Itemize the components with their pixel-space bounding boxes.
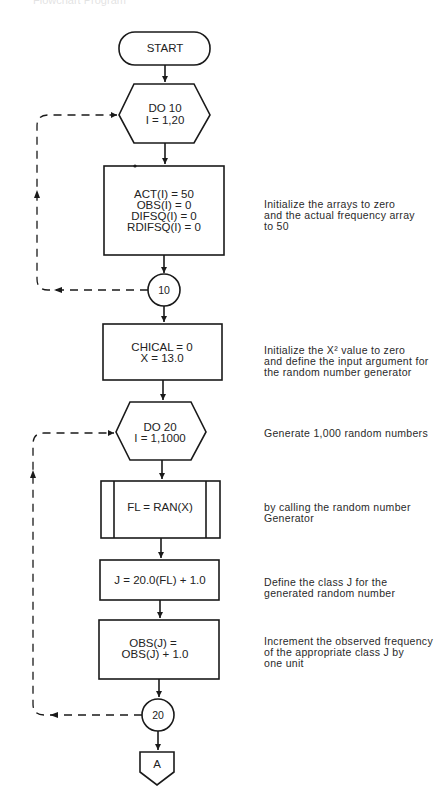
connector-10-label: 10	[158, 284, 170, 296]
do20-line2: I = 1,1000	[134, 432, 185, 444]
note-do20: Generate 1,000 random numbers	[264, 428, 428, 439]
do10-line1: DO 10	[148, 102, 181, 114]
offpage-a-label: A	[153, 758, 161, 770]
note-class-j: Define the class J for the generated ran…	[264, 577, 395, 599]
note-call-ran: by calling the random number Generator	[264, 502, 411, 524]
call-ran-label: FL = RAN(X)	[127, 501, 193, 513]
increment-obs-line2: OBS(J) + 1.0	[122, 648, 189, 660]
do10-line2: I = 1,20	[146, 114, 185, 126]
note-init-arrays: Initialize the arrays to zero and the ac…	[264, 199, 415, 232]
note-increment-obs: Increment the observed frequency of the …	[264, 636, 433, 669]
note-init-chical: Initialize the X² value to zero and defi…	[264, 345, 429, 378]
flowchart: START DO 10 I = 1,20 ACT(I) = 50 OBS(I) …	[0, 0, 435, 806]
start-label: START	[147, 42, 184, 54]
class-j-label: J = 20.0(FL) + 1.0	[114, 574, 205, 586]
connector-20-label: 20	[152, 709, 164, 721]
init-chical-line2: X = 13.0	[140, 352, 183, 364]
init-arrays-line4: RDIFSQ(I) = 0	[127, 221, 201, 233]
